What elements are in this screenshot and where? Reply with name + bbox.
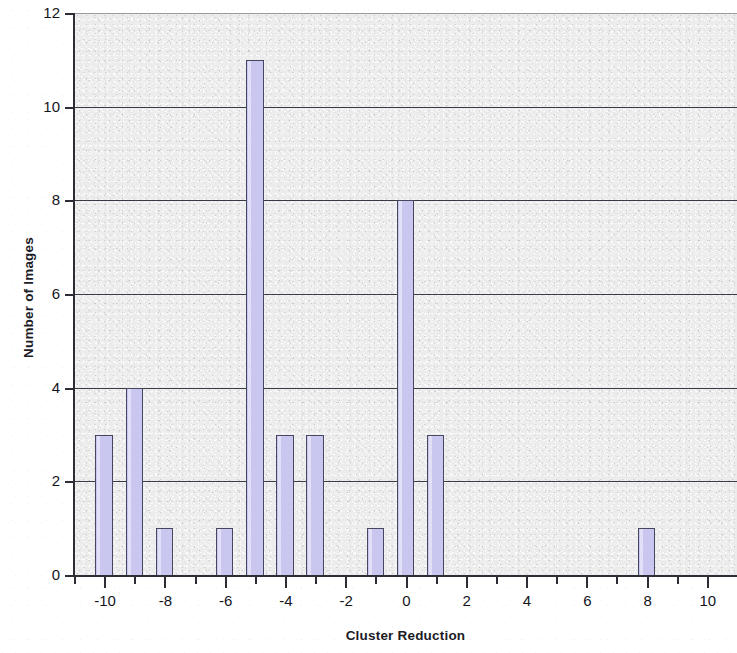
x-axis-tick-minor [556,577,558,584]
x-axis-tick-label: -6 [203,593,249,608]
gridline-y-10 [74,107,737,108]
x-axis-tick-major [586,577,588,588]
y-axis-tick-label: 0 [14,567,60,582]
y-axis-tick [65,13,74,15]
x-axis-tick-label: 4 [504,593,550,608]
bar [367,528,384,575]
histogram-chart: 024681012 -10-8-6-4-20246810 Number of I… [0,0,737,653]
x-axis-tick-label: 10 [685,593,731,608]
x-axis-tick-major [104,577,106,588]
y-axis-tick-label: 10 [14,99,60,114]
x-axis-tick-minor [616,577,618,584]
x-axis-tick-label: -2 [323,593,369,608]
x-axis-tick-minor [134,577,136,584]
bar [246,60,263,575]
bar [95,435,112,576]
plot-area [74,13,737,575]
x-axis-tick-major [345,577,347,588]
bar [216,528,233,575]
x-axis-tick-label: -4 [263,593,309,608]
y-axis-tick [65,107,74,109]
bar [126,388,143,575]
y-axis-tick [65,294,74,296]
x-axis-tick-minor [74,577,76,584]
x-axis-tick-label: -10 [82,593,128,608]
x-axis-tick-major [225,577,227,588]
x-axis-tick-major [707,577,709,588]
x-axis-tick-label: 6 [564,593,610,608]
bar [638,528,655,575]
x-axis-tick-label: -8 [142,593,188,608]
y-axis-tick-label: 12 [14,5,60,20]
y-axis-tick [65,200,74,202]
x-axis-tick-major [466,577,468,588]
x-axis-tick-minor [315,577,317,584]
x-axis-tick-minor [195,577,197,584]
y-axis-tick [65,481,74,483]
y-axis-title: Number of Images [21,178,36,418]
x-axis-tick-minor [436,577,438,584]
x-axis-tick-label: 2 [444,593,490,608]
x-axis-tick-major [406,577,408,588]
x-axis-tick-minor [375,577,377,584]
x-axis-tick-label: 8 [625,593,671,608]
x-axis-tick-minor [677,577,679,584]
y-axis-tick [65,575,74,577]
x-axis-tick-major [526,577,528,588]
gridline-y-12 [74,13,737,14]
bar [156,528,173,575]
x-axis-tick-minor [255,577,257,584]
bar [427,435,444,576]
x-axis-tick-major [647,577,649,588]
x-axis-tick-minor [496,577,498,584]
bar [276,435,293,576]
bar [306,435,323,576]
y-axis-tick [65,388,74,390]
x-axis-tick-label: 0 [384,593,430,608]
x-axis-tick-major [164,577,166,588]
y-axis-tick-label: 2 [14,473,60,488]
bar [397,200,414,575]
x-axis-tick-major [285,577,287,588]
x-axis-title: Cluster Reduction [74,628,737,643]
